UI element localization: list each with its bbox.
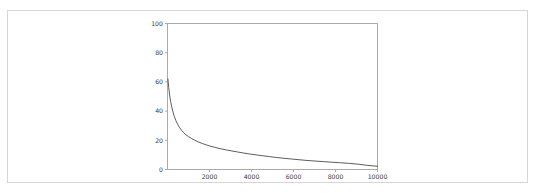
x-tick-label: 8000 bbox=[328, 173, 344, 180]
y-tick-label: 20 bbox=[155, 137, 163, 144]
decay-curve-line bbox=[168, 79, 378, 166]
x-axis-tick-labels: 200040006000800010000 bbox=[202, 173, 388, 180]
y-tick-label: 100 bbox=[151, 20, 163, 27]
y-tick-label: 40 bbox=[155, 107, 163, 114]
x-tick-label: 2000 bbox=[202, 173, 218, 180]
y-tick-label: 0 bbox=[159, 166, 163, 173]
y-axis-tick-labels: 020406080100 bbox=[151, 20, 163, 173]
y-tick-label: 60 bbox=[155, 78, 163, 85]
plot-frame bbox=[168, 24, 378, 170]
x-tick-label: 10000 bbox=[368, 173, 388, 180]
x-tick-label: 6000 bbox=[286, 173, 302, 180]
y-tick-label: 80 bbox=[155, 49, 163, 56]
chart-figure: 020406080100 200040006000800010000 bbox=[0, 0, 536, 194]
x-tick-label: 4000 bbox=[244, 173, 260, 180]
line-chart-svg: 020406080100 200040006000800010000 bbox=[0, 0, 536, 194]
screenshot-root: 020406080100 200040006000800010000 bbox=[0, 0, 536, 194]
